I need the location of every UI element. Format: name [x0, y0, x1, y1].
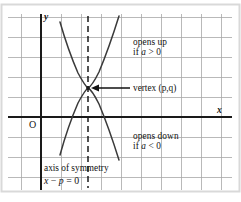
vertex-label: vertex (p,q) — [133, 83, 176, 93]
opens-down-annotation: opens down if a < 0 — [133, 131, 179, 152]
opens-down-line2: if a < 0 — [133, 141, 179, 151]
axis-of-symmetry-equation: x − p = 0 — [44, 176, 79, 187]
origin-label: O — [29, 119, 36, 130]
equation-equals-op: = — [64, 175, 74, 186]
opens-down-suffix: < 0 — [146, 141, 161, 151]
y-axis-label: y — [44, 12, 48, 23]
vertex-point — [86, 86, 90, 90]
equation-minus-op: − — [48, 175, 58, 186]
opens-up-line2: if a > 0 — [133, 47, 167, 57]
x-axis-label: x — [217, 105, 222, 116]
opens-up-annotation: opens up if a > 0 — [133, 37, 167, 58]
axis-of-symmetry-title: axis of symmetry — [44, 163, 109, 173]
equation-value: 0 — [74, 175, 79, 186]
opens-down-line1: opens down — [133, 131, 179, 141]
figure-canvas — [0, 0, 241, 202]
parabola-figure: y x O opens up if a > 0 vertex (p,q) ope… — [0, 0, 241, 202]
opens-up-suffix: > 0 — [146, 47, 161, 57]
opens-up-line1: opens up — [133, 37, 167, 47]
figure-frame — [2, 5, 240, 192]
